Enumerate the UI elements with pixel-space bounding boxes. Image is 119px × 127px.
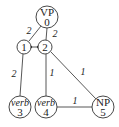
- weight-vp-2: 2: [53, 28, 58, 39]
- svg-text:4: 4: [43, 106, 49, 118]
- edge-2-np5: [51, 52, 96, 99]
- node-2: 2: [38, 40, 52, 54]
- graph-diagram: 2 2 2 1 1 1 VP 0 1 2 verb 3 verb 4 NP 5: [0, 0, 119, 127]
- svg-text:2: 2: [42, 41, 48, 53]
- svg-text:3: 3: [17, 106, 23, 118]
- weight-verb4-np5: 1: [73, 95, 78, 106]
- svg-text:1: 1: [21, 41, 27, 53]
- edge-vp-2: [46, 28, 47, 40]
- node-1: 1: [17, 40, 31, 54]
- node-verb4: verb 4: [35, 96, 57, 118]
- node-np5: NP 5: [92, 96, 114, 118]
- node-verb3: verb 3: [9, 96, 31, 118]
- node-vp: VP 0: [36, 6, 58, 28]
- weight-vp-1: 2: [27, 25, 32, 36]
- weight-2-verb4: 1: [50, 67, 55, 78]
- weight-2-np5: 1: [81, 66, 86, 77]
- svg-text:0: 0: [44, 16, 50, 28]
- svg-text:5: 5: [100, 106, 106, 118]
- edge-1-verb3: [20, 54, 23, 96]
- weight-1-verb3: 2: [12, 68, 17, 79]
